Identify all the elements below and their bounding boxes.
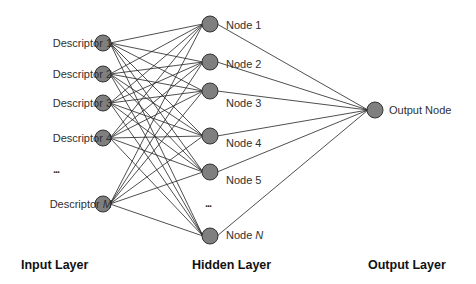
input-layer-title: Input Layer	[21, 258, 88, 272]
output-node	[367, 102, 383, 118]
edge-hidden-6-output	[217, 110, 368, 236]
edge-input-1-hidden-2	[110, 43, 203, 62]
hidden-node-2	[202, 54, 218, 70]
edge-input-2-hidden-1	[110, 24, 203, 74]
output-layer-title: Output Layer	[368, 258, 446, 272]
edge-input-4-hidden-1	[110, 24, 203, 138]
input-ellipsis: ...	[53, 163, 59, 175]
hidden-label-5: Node 5	[226, 174, 261, 186]
hidden-label-4: Node 4	[226, 137, 261, 149]
edge-input-4-hidden-5	[110, 138, 203, 172]
input-label-3: Descriptor 3	[53, 97, 112, 109]
hidden-node-4	[202, 128, 218, 144]
edge-input-5-hidden-4	[110, 136, 203, 204]
hidden-label-n: Node N	[226, 229, 263, 241]
hidden-layer-title: Hidden Layer	[192, 258, 271, 272]
input-label-2: Descriptor 2	[53, 68, 112, 80]
hidden-label-1: Node 1	[226, 19, 261, 31]
hidden-label-3: Node 3	[226, 97, 261, 109]
edge-input-1-hidden-1	[110, 24, 203, 43]
hidden-node-5	[202, 164, 218, 180]
hidden-node-6	[202, 228, 218, 244]
nodes	[95, 16, 383, 244]
input-label-1: Descriptor 1	[53, 37, 112, 49]
edge-hidden-4-output	[217, 110, 368, 136]
input-label-m-var: M	[103, 198, 112, 210]
edge-input-5-hidden-6	[110, 204, 203, 236]
output-node-label: Output Node	[389, 104, 451, 116]
input-label-m-prefix: Descriptor	[50, 198, 103, 210]
hidden-label-n-var: N	[255, 229, 263, 241]
edge-input-1-hidden-4	[110, 43, 203, 136]
hidden-label-n-prefix: Node	[226, 229, 255, 241]
hidden-ellipsis: ...	[205, 197, 211, 209]
input-label-m: Descriptor M	[50, 198, 112, 210]
hidden-node-1	[202, 16, 218, 32]
input-label-4: Descriptor 4	[53, 132, 112, 144]
hidden-label-2: Node 2	[226, 58, 261, 70]
hidden-node-3	[202, 83, 218, 99]
connections	[110, 24, 368, 236]
